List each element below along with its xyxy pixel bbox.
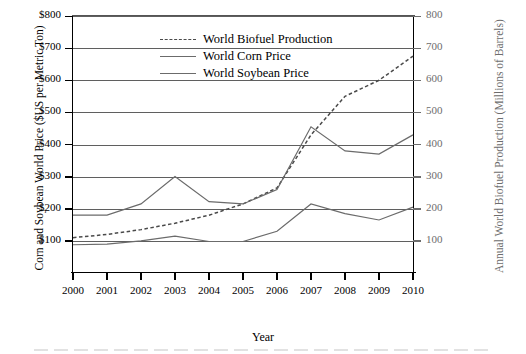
y-axis-right-tick [413,16,421,17]
chart-legend: World Biofuel ProductionWorld Corn Price… [160,31,333,82]
x-axis-tick [174,273,175,280]
y-axis-left-tick-label: $800 [5,8,61,20]
series-line-world-soybean-price [73,127,413,215]
chart-figure: Corn and Soybean World Price ($US per Me… [0,0,526,354]
y-axis-right-title: Annual World Biofuel Production (Million… [493,23,505,273]
y-axis-right-tick [413,208,421,209]
y-axis-right-tick-label: 500 [426,104,472,116]
x-axis-tick [344,273,345,280]
y-axis-left-tick [65,176,73,177]
y-axis-right-tick [413,112,421,113]
x-axis-title: Year [0,330,526,345]
x-axis-tick [106,273,107,280]
y-axis-left-tick [65,80,73,81]
y-axis-right-tick-label: 800 [426,8,472,20]
x-axis-tick-label: 2010 [393,284,433,296]
legend-item-label: World Corn Price [203,49,291,64]
legend-line-swatch-icon [160,69,196,79]
legend-line-swatch-icon [160,35,196,45]
y-axis-right-tick-label: 300 [426,169,472,181]
y-axis-right-tick [413,240,421,241]
y-axis-left-tick-label: $600 [5,72,61,84]
y-axis-right-tick-label: 100 [426,233,472,245]
x-axis-tick [378,273,379,280]
legend-item-label: World Biofuel Production [203,32,333,47]
y-axis-left-tick-label: $100 [5,233,61,245]
x-axis-tick [208,273,209,280]
legend-item: World Biofuel Production [160,31,333,48]
y-axis-left-tick-label: $700 [5,40,61,52]
legend-line-swatch-icon [160,52,196,62]
y-axis-right-tick [413,144,421,145]
y-axis-left-tick [65,144,73,145]
y-axis-left-tick-label: $500 [5,104,61,116]
legend-item: World Soybean Price [160,65,333,82]
y-axis-left-tick-label: $400 [5,137,61,149]
y-axis-left-tick-label: $200 [5,201,61,213]
y-axis-right-tick-label: 600 [426,72,472,84]
legend-item: World Corn Price [160,48,333,65]
y-axis-right-tick-label: 700 [426,40,472,52]
y-axis-left-tick [65,48,73,49]
page-footer-artifact [34,349,489,351]
y-axis-right-tick [413,48,421,49]
y-axis-left-tick [65,208,73,209]
y-axis-right-tick-label: 200 [426,201,472,213]
series-line-world-biofuel-production [73,56,413,238]
y-axis-left-tick [65,16,73,17]
x-axis-tick [276,273,277,280]
y-axis-right-tick [413,80,421,81]
x-axis-tick [412,273,413,280]
legend-item-label: World Soybean Price [203,66,309,81]
y-axis-left-tick-label: $300 [5,169,61,181]
x-axis-tick [72,273,73,280]
y-axis-left-tick [65,112,73,113]
x-axis-tick [310,273,311,280]
x-axis-tick [140,273,141,280]
y-axis-left-tick [65,240,73,241]
y-axis-right-tick [413,176,421,177]
x-axis-tick [242,273,243,280]
y-axis-right-tick-label: 400 [426,137,472,149]
